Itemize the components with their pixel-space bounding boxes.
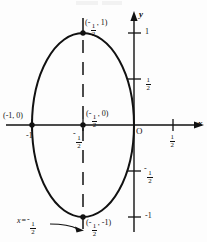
origin-label: O [136, 127, 143, 136]
y-tick-half-fraction: 12 [146, 77, 151, 91]
annotation-leader [50, 224, 84, 233]
point-label-left-vertex: (-1, 0) [3, 112, 23, 120]
x-tick-label-half: 12 [169, 130, 175, 148]
point-label-bottom-vertex: (-12, -1) [86, 219, 111, 237]
equation-lhs: x [17, 216, 21, 225]
point-label-center: (-12, 0) [86, 110, 108, 128]
y-tick-label-1: 1 [145, 28, 149, 36]
y-tick-neg-half-fraction: 12 [147, 170, 152, 184]
point-left-vertex [29, 122, 34, 127]
top-vertex-label-rest: , 1) [97, 18, 108, 27]
x-axis-label: x [198, 119, 203, 128]
bottom-vertex-label-fraction: 12 [92, 223, 97, 237]
equation-fraction: 12 [30, 221, 35, 235]
center-label-rest: , 0) [98, 109, 109, 118]
point-center [80, 122, 85, 127]
y-axis-label: y [139, 10, 143, 19]
ellipse-figure: x y O -1 -12 12 1 12 -12 -1 (-1, 0) (-12… [0, 0, 207, 242]
point-label-top-vertex: (-12, 1) [85, 19, 107, 37]
top-vertex-label-open: (- [85, 18, 90, 27]
x-tick-half-fraction: 12 [170, 134, 175, 148]
y-tick-label-neg-half: -12 [144, 165, 153, 184]
equation-equals: = [22, 216, 27, 225]
y-tick-label-neg1: -1 [145, 212, 152, 220]
y-tick-label-half: 12 [145, 73, 151, 91]
x-tick-neg-half-fraction: 12 [76, 135, 81, 149]
bottom-vertex-label-open: (- [86, 218, 91, 227]
center-label-open: (- [86, 109, 91, 118]
center-label-fraction: 12 [92, 114, 97, 128]
point-bottom-vertex [80, 214, 85, 219]
x-tick-label-neg1: -1 [26, 132, 33, 140]
x-tick-label-neg-half: -12 [73, 130, 82, 149]
left-vertex-label-rest: 0) [14, 111, 23, 120]
left-vertex-label-open: (-1, [3, 111, 14, 120]
axis-of-symmetry-equation: x=-12 [17, 216, 36, 235]
top-vertex-label-fraction: 12 [91, 23, 96, 37]
bottom-vertex-label-rest: , -1) [98, 218, 111, 227]
